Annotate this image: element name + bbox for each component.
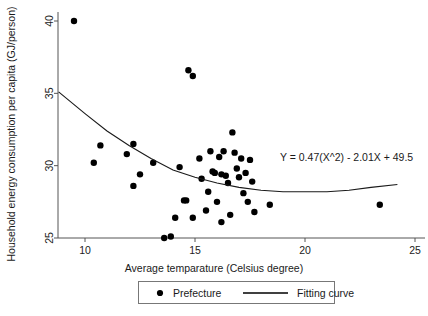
scatter-point — [214, 199, 220, 205]
scatter-point — [124, 151, 130, 157]
scatter-point — [205, 189, 211, 195]
scatter-point — [203, 207, 209, 213]
scatter-point — [231, 149, 237, 155]
scatter-point — [196, 155, 202, 161]
x-tick-label: 20 — [299, 244, 311, 256]
x-tick-label: 25 — [409, 244, 421, 256]
scatter-point — [190, 215, 196, 221]
scatter-point — [183, 197, 189, 203]
scatter-point — [251, 209, 257, 215]
scatter-point — [212, 170, 218, 176]
scatter-point — [229, 129, 235, 135]
scatter-point — [223, 173, 229, 179]
scatter-point — [227, 212, 233, 218]
scatter-points-group — [71, 18, 383, 241]
scatter-point — [137, 171, 143, 177]
scatter-point — [245, 199, 251, 205]
y-tick-label: 30 — [43, 160, 55, 172]
scatter-point — [190, 73, 196, 79]
scatter-point — [71, 18, 77, 24]
scatter-point — [242, 170, 248, 176]
scatter-point — [161, 235, 167, 241]
y-axis-title: Household energy consumption per capita … — [5, 6, 17, 261]
scatter-point — [216, 154, 222, 160]
y-tick-label: 40 — [43, 15, 55, 27]
scatter-point — [185, 67, 191, 73]
legend: Prefecture Fitting curve — [139, 282, 355, 304]
scatter-point — [130, 183, 136, 189]
legend-label-prefecture: Prefecture — [173, 287, 222, 299]
scatter-point — [267, 202, 273, 208]
scatter-point — [238, 155, 244, 161]
y-tick-label: 25 — [43, 232, 55, 244]
legend-label-fitting-curve: Fitting curve — [297, 287, 354, 299]
x-tick-label: 10 — [79, 244, 91, 256]
scatter-point — [218, 219, 224, 225]
legend-marker-prefecture-icon — [157, 290, 163, 296]
scatter-point — [234, 165, 240, 171]
y-axis-tick-labels: 25303540 — [43, 15, 55, 244]
scatter-point — [247, 157, 253, 163]
x-tick-label: 15 — [189, 244, 201, 256]
scatter-point — [240, 190, 246, 196]
scatter-point — [97, 142, 103, 148]
scatter-chart-figure: 25303540 10152025 Y = 0.47(X^2) - 2.01X … — [0, 0, 428, 316]
scatter-point — [168, 233, 174, 239]
scatter-point — [91, 160, 97, 166]
scatter-point — [207, 148, 213, 154]
x-axis-tick-labels: 10152025 — [79, 244, 421, 256]
x-axis-title: Average temparature (Celsius degree) — [125, 262, 303, 274]
scatter-point — [249, 178, 255, 184]
scatter-point — [176, 164, 182, 170]
scatter-point — [220, 148, 226, 154]
scatter-point — [172, 215, 178, 221]
y-tick-label: 35 — [43, 87, 55, 99]
scatter-point — [236, 174, 242, 180]
scatter-point — [377, 202, 383, 208]
regression-equation-label: Y = 0.47(X^2) - 2.01X + 49.5 — [280, 151, 413, 163]
chart-canvas: 25303540 10152025 Y = 0.47(X^2) - 2.01X … — [0, 0, 428, 316]
